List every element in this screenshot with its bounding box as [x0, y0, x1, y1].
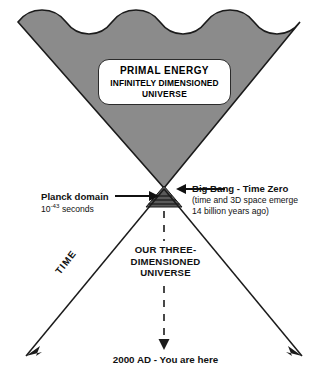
- arrow-left-icon: [176, 184, 186, 194]
- planck-domain-value: 10-43 seconds: [41, 205, 109, 215]
- big-bang-note-line-2: 14 billion years ago): [192, 207, 298, 217]
- planck-value-base: 10: [41, 204, 51, 214]
- present-day-caption: 2000 AD - You are here: [0, 355, 331, 366]
- big-bang-label-group: Big Bang - Time Zero (time and 3D space …: [192, 184, 298, 217]
- cosmology-diagram: PRIMAL ENERGY INFINITELY DIMENSIONED UNI…: [0, 0, 331, 388]
- present-time-arrow: [159, 211, 170, 350]
- big-bang-note-line-1: (time and 3D space emerge: [192, 196, 298, 206]
- planck-value-exponent: -43: [51, 202, 60, 209]
- big-bang-label: Big Bang - Time Zero: [192, 184, 298, 195]
- arrow-down-dashed-icon: [159, 339, 170, 350]
- planck-value-unit: seconds: [60, 204, 94, 214]
- our-universe-caption: OUR THREE-DIMENSIONEDUNIVERSE: [0, 244, 331, 279]
- primal-energy-subtitle-2: UNIVERSE: [142, 89, 187, 99]
- primal-energy-subtitle-1: INFINITELY DIMENSIONED: [110, 78, 218, 88]
- primal-energy-title: PRIMAL ENERGY: [120, 65, 209, 76]
- primal-energy-callout-box: PRIMAL ENERGY INFINITELY DIMENSIONED UNI…: [98, 59, 231, 105]
- planck-domain-label-group: Planck domain 10-43 seconds: [41, 192, 109, 214]
